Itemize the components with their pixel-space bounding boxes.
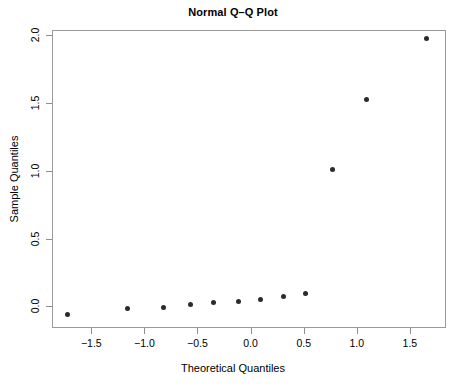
data-point bbox=[125, 306, 130, 311]
y-axis-tick bbox=[46, 239, 52, 240]
x-axis-tick-label: 0.5 bbox=[296, 337, 311, 349]
y-axis-tick-label: 1.5 bbox=[29, 96, 41, 111]
page-title: Normal Q–Q Plot bbox=[0, 6, 466, 18]
data-point bbox=[364, 97, 369, 102]
x-axis-tick bbox=[304, 328, 305, 334]
x-axis-tick-label: −1.5 bbox=[81, 337, 102, 349]
data-point bbox=[188, 302, 193, 307]
y-axis-tick-label: 2.0 bbox=[29, 28, 41, 43]
qq-plot-figure: Normal Q–Q Plot −1.5−1.0−0.50.00.51.01.5… bbox=[0, 0, 466, 387]
x-axis-tick bbox=[251, 328, 252, 334]
plot-data-area bbox=[52, 30, 446, 328]
data-point bbox=[211, 300, 216, 305]
x-axis-tick bbox=[410, 328, 411, 334]
data-point bbox=[330, 167, 335, 172]
data-point bbox=[424, 36, 429, 41]
data-point bbox=[161, 305, 166, 310]
y-axis-tick bbox=[46, 171, 52, 172]
data-point bbox=[303, 291, 308, 296]
y-axis-tick-label: 0.0 bbox=[29, 299, 41, 314]
y-axis-tick bbox=[46, 306, 52, 307]
x-axis-tick bbox=[91, 328, 92, 334]
data-point bbox=[258, 297, 263, 302]
y-axis-tick-label: 1.0 bbox=[29, 164, 41, 179]
x-axis-tick-label: 1.5 bbox=[403, 337, 418, 349]
y-axis-tick-label: 0.5 bbox=[29, 231, 41, 246]
y-axis-tick bbox=[46, 103, 52, 104]
x-axis-tick-label: 0.0 bbox=[243, 337, 258, 349]
data-point bbox=[281, 294, 286, 299]
x-axis-tick bbox=[144, 328, 145, 334]
x-axis-tick bbox=[357, 328, 358, 334]
y-axis-tick bbox=[46, 35, 52, 36]
x-axis-tick bbox=[197, 328, 198, 334]
x-axis-tick-label: −0.5 bbox=[187, 337, 208, 349]
data-point bbox=[65, 312, 70, 317]
y-axis-title: Sample Quantiles bbox=[8, 136, 20, 223]
x-axis-tick-label: 1.0 bbox=[349, 337, 364, 349]
data-point bbox=[236, 299, 241, 304]
x-axis-title: Theoretical Quantiles bbox=[0, 362, 466, 374]
x-axis-tick-label: −1.0 bbox=[134, 337, 155, 349]
